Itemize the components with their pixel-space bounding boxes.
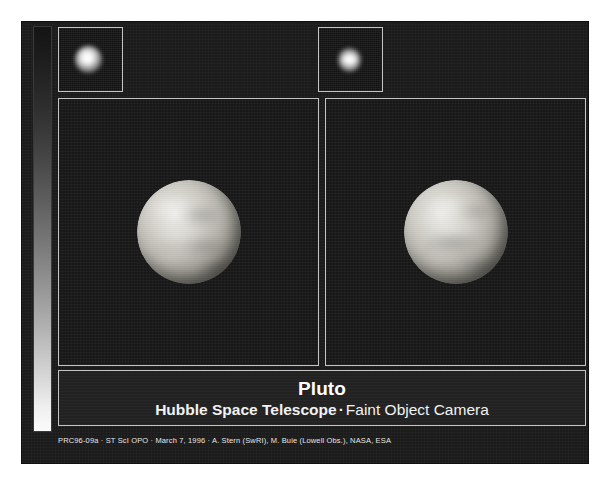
raw-image-thumbnail-hemisphere-1 [58,27,123,92]
pluto-disk [404,180,508,284]
pluto-surface-map-hemisphere-2 [325,98,586,366]
pluto-raw-blob-core [342,56,357,63]
pluto-disk [137,180,241,284]
subtitle-separator: · [337,401,346,418]
page-title: Pluto [298,378,346,399]
subtitle-instrument-telescope: Hubble Space Telescope [155,401,336,418]
pluto-raw-blob-core [81,52,94,65]
raw-image-thumbnail-hemisphere-2 [318,27,383,92]
pluto-disk-limb-shading [137,180,241,284]
subtitle: Hubble Space Telescope·Faint Object Came… [155,400,489,419]
subtitle-instrument-camera: Faint Object Camera [346,401,489,418]
pluto-poster: Pluto Hubble Space Telescope·Faint Objec… [22,22,588,463]
grayscale-intensity-wedge [33,26,52,432]
title-panel: Pluto Hubble Space Telescope·Faint Objec… [58,370,586,426]
pluto-disk-limb-shading [404,180,508,284]
credit-line: PRC96-09a · ST ScI OPO · March 7, 1996 ·… [58,436,391,446]
pluto-surface-map-hemisphere-1 [58,98,319,366]
